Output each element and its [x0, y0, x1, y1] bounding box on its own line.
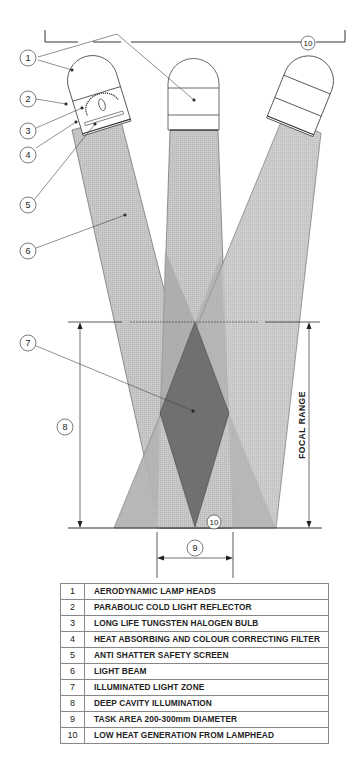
legend-number: 7 [61, 680, 85, 696]
svg-text:1: 1 [25, 53, 30, 63]
legend-number: 4 [61, 632, 85, 648]
svg-text:2: 2 [25, 94, 30, 104]
callout-1: 1 [20, 50, 36, 66]
legend-description: TASK AREA 200-300mm DIAMETER [85, 712, 329, 728]
legend-row: 1AERODYNAMIC LAMP HEADS [61, 584, 329, 600]
legend-description: LOW HEAT GENERATION FROM LAMPHEAD [85, 728, 329, 744]
svg-text:9: 9 [192, 543, 197, 553]
legend-table: 1AERODYNAMIC LAMP HEADS 2PARABOLIC COLD … [60, 583, 329, 744]
lamp-head-right [267, 48, 341, 136]
callout-10-bottom: 10 [207, 515, 221, 529]
legend-row: 6LIGHT BEAM [61, 664, 329, 680]
svg-text:8: 8 [62, 422, 67, 432]
callout-8: 8 [57, 419, 73, 435]
callout-10-top: 10 [301, 36, 315, 50]
svg-text:3: 3 [25, 126, 30, 136]
legend-number: 6 [61, 664, 85, 680]
callout-7: 7 [20, 335, 36, 351]
callout-2: 2 [20, 91, 36, 107]
callout-6: 6 [20, 243, 36, 259]
legend-number: 1 [61, 584, 85, 600]
callout-5: 5 [20, 197, 36, 213]
svg-text:6: 6 [25, 246, 30, 256]
legend-number: 10 [61, 728, 85, 744]
legend-description: AERODYNAMIC LAMP HEADS [85, 584, 329, 600]
legend-row: 4HEAT ABSORBING AND COLOUR CORRECTING FI… [61, 632, 329, 648]
svg-text:10: 10 [304, 39, 313, 48]
legend-number: 5 [61, 648, 85, 664]
legend-row: 8DEEP CAVITY ILLUMINATION [61, 696, 329, 712]
svg-text:10: 10 [210, 518, 219, 527]
svg-text:4: 4 [25, 150, 30, 160]
lamp-head-center [168, 59, 219, 131]
focal-range-label: FOCAL RANGE [297, 391, 307, 459]
callout-9: 9 [187, 540, 203, 556]
legend-row: 9TASK AREA 200-300mm DIAMETER [61, 712, 329, 728]
legend-description: PARABOLIC COLD LIGHT REFLECTOR [85, 600, 329, 616]
callout-4: 4 [20, 147, 36, 163]
legend-row: 3LONG LIFE TUNGSTEN HALOGEN BULB [61, 616, 329, 632]
svg-text:7: 7 [25, 338, 30, 348]
legend-description: LIGHT BEAM [85, 664, 329, 680]
lamp-beam-diagram: FOCAL RANGE [0, 0, 361, 580]
callout-3: 3 [20, 123, 36, 139]
legend-number: 3 [61, 616, 85, 632]
lamp-head-left [61, 49, 131, 135]
legend-row: 10LOW HEAT GENERATION FROM LAMPHEAD [61, 728, 329, 744]
legend-description: DEEP CAVITY ILLUMINATION [85, 696, 329, 712]
legend-row: 7ILLUMINATED LIGHT ZONE [61, 680, 329, 696]
legend-row: 5ANTI SHATTER SAFETY SCREEN [61, 648, 329, 664]
legend-description: ANTI SHATTER SAFETY SCREEN [85, 648, 329, 664]
top-heat-bracket [45, 30, 345, 42]
legend-number: 9 [61, 712, 85, 728]
legend-row: 2PARABOLIC COLD LIGHT REFLECTOR [61, 600, 329, 616]
legend-description: ILLUMINATED LIGHT ZONE [85, 680, 329, 696]
legend-number: 8 [61, 696, 85, 712]
svg-text:5: 5 [25, 200, 30, 210]
legend-description: HEAT ABSORBING AND COLOUR CORRECTING FIL… [85, 632, 329, 648]
legend-number: 2 [61, 600, 85, 616]
legend-description: LONG LIFE TUNGSTEN HALOGEN BULB [85, 616, 329, 632]
